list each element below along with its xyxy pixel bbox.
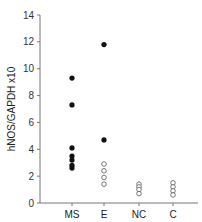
x-tick-label: C [169,209,176,220]
data-point-open-e [102,162,107,167]
y-ticks: 02468101214 [23,10,40,209]
scatter-chart: 02468101214 MSENCC hNOS/GAPDH x10 [0,0,202,222]
x-tick-label: NC [132,209,146,220]
y-tick-label: 10 [23,63,35,74]
data-point-open-e [102,175,107,180]
y-tick-label: 6 [28,117,34,128]
data-point-filled-ms [69,145,74,150]
x-tick-label: MS [65,209,80,220]
data-point-filled-e [101,137,106,142]
y-tick-label: 2 [28,171,34,182]
axes [40,15,198,203]
x-ticks: MSENCC [65,203,177,220]
y-axis-title: hNOS/GAPDH x10 [6,66,17,151]
data-point-open-e [102,168,107,173]
y-tick-label: 4 [28,144,34,155]
data-point-filled-ms [69,157,74,162]
y-tick-label: 14 [23,10,35,21]
y-tick-label: 8 [28,90,34,101]
data-points [69,42,175,197]
data-point-open-e [102,182,107,187]
y-tick-label: 0 [28,198,34,209]
data-point-open-c [171,193,176,198]
data-point-filled-ms [69,76,74,81]
data-point-open-nc [137,191,142,196]
data-point-filled-ms [69,165,74,170]
data-point-filled-e [101,42,106,47]
y-tick-label: 12 [23,36,35,47]
x-tick-label: E [101,209,108,220]
data-point-filled-ms [69,102,74,107]
